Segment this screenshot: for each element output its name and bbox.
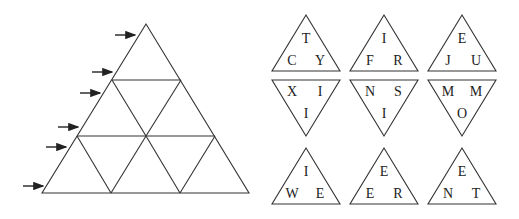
piece-letter: E xyxy=(458,31,467,46)
piece-letter: I xyxy=(382,106,387,121)
piece-letter: R xyxy=(393,53,403,68)
piece-letter: X xyxy=(287,84,297,99)
triangle-grid xyxy=(42,24,249,193)
piece-1: T C Y xyxy=(272,15,340,71)
piece-letter: E xyxy=(458,164,467,179)
row-arrows xyxy=(23,35,135,186)
piece-3: E J U xyxy=(428,15,496,71)
piece-letter: F xyxy=(366,53,374,68)
piece-letter: R xyxy=(393,186,403,201)
piece-4: X I I xyxy=(272,80,340,136)
piece-6: M M O xyxy=(428,80,496,136)
piece-letter: E xyxy=(380,164,389,179)
piece-letter: M xyxy=(442,84,455,99)
piece-letter: J xyxy=(445,53,451,68)
piece-letter: N xyxy=(443,186,453,201)
piece-letter: N xyxy=(365,84,375,99)
piece-letter: I xyxy=(382,31,387,46)
piece-letter: S xyxy=(394,84,402,99)
piece-9: E N T xyxy=(428,148,496,204)
piece-letter: I xyxy=(304,164,309,179)
piece-letter: O xyxy=(457,106,467,121)
piece-2: I F R xyxy=(350,15,418,71)
piece-letter: M xyxy=(470,84,483,99)
piece-letter: T xyxy=(472,186,481,201)
piece-letter: Y xyxy=(315,53,325,68)
piece-letter: I xyxy=(318,84,323,99)
piece-letter: C xyxy=(287,53,296,68)
piece-letter: I xyxy=(304,106,309,121)
piece-letter: E xyxy=(316,186,325,201)
piece-8: E E R xyxy=(350,148,418,204)
pieces: T C Y I F R E J U X I I N S I xyxy=(272,15,496,204)
puzzle-figure: T C Y I F R E J U X I I N S I xyxy=(0,0,519,219)
piece-letter: E xyxy=(366,186,375,201)
piece-5: N S I xyxy=(350,80,418,136)
piece-letter: W xyxy=(285,186,299,201)
piece-7: I W E xyxy=(272,148,340,204)
piece-letter: T xyxy=(302,31,311,46)
piece-letter: U xyxy=(471,53,481,68)
